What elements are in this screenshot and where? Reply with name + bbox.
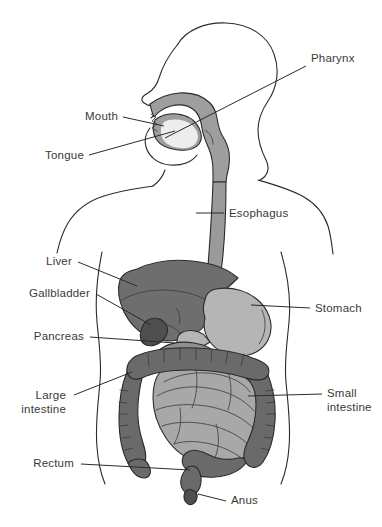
- label-mouth-line1: Mouth: [85, 110, 118, 122]
- label-tongue: Tongue: [45, 149, 84, 161]
- anatomy-illustration: PharynxMouthTongueEsophagusLiverGallblad…: [0, 0, 382, 527]
- stomach-shape: [204, 288, 272, 356]
- label-small-intestine: Smallintestine: [327, 387, 372, 413]
- label-esophagus-line1: Esophagus: [229, 207, 288, 219]
- label-large-intestine-line1: Large: [36, 389, 66, 401]
- label-esophagus: Esophagus: [229, 207, 288, 219]
- label-small-intestine-line1: Small: [327, 387, 357, 399]
- anus-leader: [198, 494, 226, 501]
- label-pancreas-line1: Pancreas: [34, 330, 84, 342]
- label-rectum-line1: Rectum: [33, 457, 74, 469]
- label-gallbladder-line1: Gallbladder: [29, 287, 90, 299]
- label-stomach-line1: Stomach: [315, 302, 362, 314]
- label-tongue-line1: Tongue: [45, 149, 84, 161]
- left-shoulder-outline: [57, 186, 153, 253]
- label-anus-line1: Anus: [231, 494, 258, 506]
- label-anus: Anus: [231, 494, 258, 506]
- label-rectum: Rectum: [33, 457, 74, 469]
- label-stomach: Stomach: [315, 302, 362, 314]
- oral-pharynx-organ: [150, 93, 229, 182]
- label-gallbladder: Gallbladder: [29, 287, 90, 299]
- label-mouth: Mouth: [85, 110, 118, 122]
- neck-front-outline: [153, 170, 165, 186]
- right-torso-outline: [281, 252, 290, 484]
- label-small-intestine-line2: intestine: [327, 401, 372, 413]
- label-liver-line1: Liver: [46, 255, 72, 267]
- label-large-intestine: Largeintestine: [21, 389, 66, 415]
- label-pharynx: Pharynx: [311, 52, 355, 64]
- rectum-organ: [181, 466, 201, 505]
- left-torso-outline: [96, 252, 105, 484]
- label-large-intestine-line2: intestine: [21, 403, 66, 415]
- label-liver: Liver: [46, 255, 72, 267]
- label-pancreas: Pancreas: [34, 330, 84, 342]
- label-pharynx-line1: Pharynx: [311, 52, 355, 64]
- digestive-system-diagram: PharynxMouthTongueEsophagusLiverGallblad…: [0, 0, 382, 527]
- cecum-shape: [128, 459, 150, 478]
- anus-shape: [184, 490, 197, 505]
- ascending-colon-shape: [119, 372, 146, 469]
